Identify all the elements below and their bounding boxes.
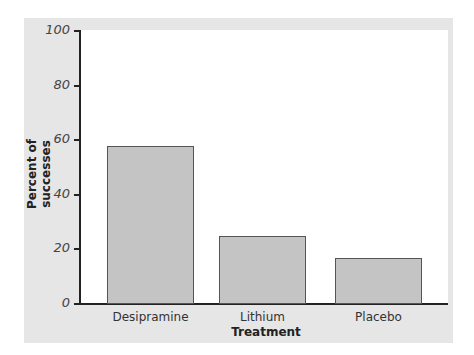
- x-category-label: Lithium: [203, 310, 323, 324]
- y-tick-label: 80: [30, 77, 70, 92]
- y-tick: [74, 139, 80, 141]
- y-tick: [74, 30, 80, 32]
- y-tick: [74, 248, 80, 250]
- bar-placebo: [335, 258, 422, 304]
- x-category-label: Desipramine: [91, 310, 211, 324]
- bar-desipramine: [107, 146, 194, 304]
- y-axis-label: Percent of successes: [25, 104, 53, 244]
- y-tick-label: 100: [30, 22, 70, 37]
- x-axis-label: Treatment: [196, 325, 336, 339]
- y-tick: [74, 85, 80, 87]
- y-tick: [74, 303, 80, 305]
- y-tick-label: 0: [30, 295, 70, 310]
- y-tick: [74, 194, 80, 196]
- x-category-label: Placebo: [319, 310, 439, 324]
- bar-lithium: [219, 236, 306, 304]
- y-axis-line: [79, 30, 81, 305]
